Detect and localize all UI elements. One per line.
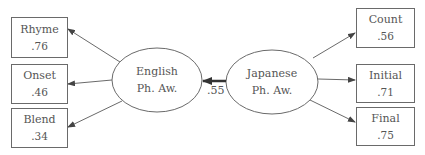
indicator-loading: .76	[31, 38, 48, 54]
indicator-name: Count	[369, 12, 403, 28]
indicator-box-final: Final .75	[356, 107, 415, 146]
arrow-japanese-count	[313, 33, 355, 58]
indicator-box-blend: Blend .34	[11, 108, 68, 148]
indicator-name: Rhyme	[20, 22, 59, 38]
indicator-loading: .75	[377, 127, 394, 143]
arrow-japanese-initial	[318, 79, 355, 80]
indicator-name: Final	[371, 111, 399, 127]
indicator-loading: .34	[31, 128, 48, 144]
indicator-box-count: Count .56	[356, 8, 415, 48]
structural-coefficient: .55	[207, 84, 225, 97]
japanese-latent-label: Japanese Ph. Aw.	[226, 50, 318, 114]
indicator-box-initial: Initial .71	[356, 64, 415, 103]
latent-line1: Japanese	[247, 65, 297, 82]
indicator-name: Initial	[369, 68, 402, 84]
indicator-name: Blend	[23, 112, 55, 128]
latent-line2: Ph. Aw.	[252, 82, 293, 99]
latent-line2: Ph. Aw.	[137, 80, 178, 97]
indicator-loading: .56	[377, 28, 394, 44]
indicator-name: Onset	[23, 68, 56, 84]
arrow-english-onset	[68, 80, 112, 84]
indicator-loading: .46	[31, 84, 48, 100]
latent-line1: English	[136, 63, 178, 80]
indicator-loading: .71	[377, 84, 394, 100]
indicator-box-onset: Onset .46	[11, 64, 68, 104]
indicator-box-rhyme: Rhyme .76	[11, 17, 68, 58]
english-latent-label: English Ph. Aw.	[112, 48, 202, 112]
